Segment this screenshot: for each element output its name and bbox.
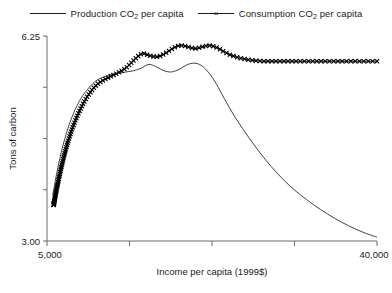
- x-tick-label-min: 5,000: [38, 249, 62, 260]
- axes-group: [43, 36, 377, 246]
- y-tick-label-max: 6.25: [22, 31, 41, 42]
- y-axis-ticks: [43, 36, 47, 241]
- chart-figure: Production CO2 per capita × Consumption …: [0, 0, 392, 293]
- y-tick-label-min: 3.00: [22, 236, 41, 247]
- x-axis-title: Income per capita (1999$): [157, 266, 268, 277]
- chart-plot-area: 6.25 3.00 5,000 40,000 Income per capita…: [0, 0, 392, 293]
- series-line-production: [53, 63, 377, 237]
- series-line-consumption: [54, 45, 377, 205]
- x-tick-label-max: 40,000: [359, 249, 388, 260]
- axis-lines: [47, 36, 377, 241]
- series-group: [52, 43, 380, 237]
- x-axis-ticks: [47, 241, 377, 246]
- y-axis-title: Tons of carbon: [7, 107, 18, 169]
- series-markers-consumption: [52, 43, 380, 207]
